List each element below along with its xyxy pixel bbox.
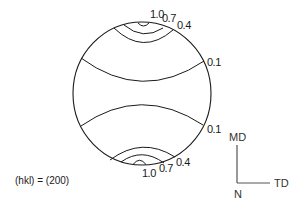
contour-bottom-0-7 — [121, 155, 164, 163]
label-top-0-1: 0.1 — [207, 57, 221, 68]
reflection-label: (hkl) = (200) — [15, 175, 69, 186]
label-bottom-0-1: 0.1 — [207, 124, 221, 135]
contour-top-0-1 — [81, 58, 204, 81]
contour-bottom-1-0 — [133, 160, 146, 164]
md-axis-label: MD — [229, 132, 246, 143]
projection-circle — [73, 22, 211, 165]
contour-top-0-4 — [114, 28, 173, 43]
td-axis-label: TD — [274, 178, 289, 189]
n-axis-label: N — [234, 189, 242, 200]
label-bottom-1-0: 1.0 — [142, 168, 156, 179]
label-bottom-0-4: 0.4 — [176, 157, 190, 168]
contour-bottom-0-1 — [81, 105, 203, 126]
contour-bottom-0-4 — [110, 147, 175, 160]
label-top-0-4: 0.4 — [177, 20, 191, 31]
label-top-0-7: 0.7 — [162, 13, 176, 24]
contour-top-1-0 — [138, 23, 149, 26]
label-bottom-0-7: 0.7 — [159, 163, 173, 174]
